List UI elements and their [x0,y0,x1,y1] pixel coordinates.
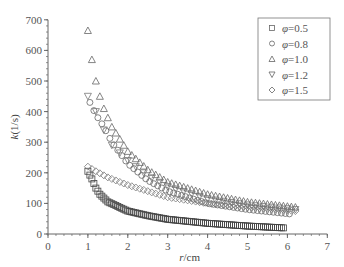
y-tick-label: 400 [26,106,43,118]
x-axis-label: r/cm [179,251,200,263]
x-tick-label: 1 [85,240,91,252]
legend-item: φ=1.2 [282,69,308,81]
y-tick-label: 0 [37,228,43,240]
y-tick-label: 700 [26,14,43,26]
legend-item: φ=0.8 [282,38,309,50]
y-axis-label: k(1/s) [8,114,21,139]
x-tick-label: 5 [245,240,251,252]
legend: φ=0.5φ=0.8φ=1.0φ=1.2φ=1.5 [258,18,330,100]
y-tick-label: 100 [26,197,43,209]
y-tick-label: 600 [26,44,43,56]
y-tick-label: 500 [26,75,43,87]
x-tick-label: 4 [205,240,211,252]
x-tick-label: 7 [325,240,331,252]
y-tick-label: 300 [26,136,43,148]
x-tick-label: 2 [125,240,131,252]
x-tick-label: 6 [285,240,291,252]
legend-item: φ=0.5 [282,22,309,34]
legend-item: φ=1.5 [282,84,309,96]
legend-item: φ=1.0 [282,53,309,65]
x-tick-label: 3 [165,240,171,252]
y-tick-label: 200 [26,167,43,179]
x-tick-label: 0 [45,240,51,252]
chart: 010020030040050060070001234567r/cmk(1/s)… [0,0,344,267]
